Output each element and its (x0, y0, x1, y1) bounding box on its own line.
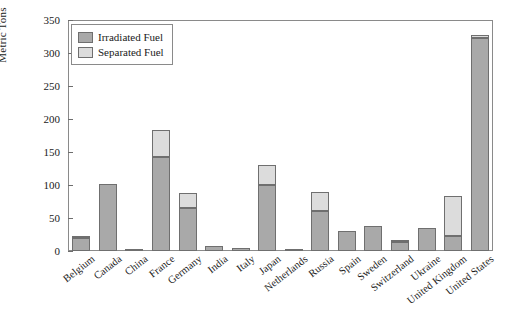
y-axis-title: Metric Tons (0, 0, 8, 95)
x-tick-label: Russia (307, 253, 336, 279)
legend-label: Irradiated Fuel (98, 31, 163, 43)
x-tick-label: Canada (92, 253, 124, 281)
y-tick-label: 300 (30, 47, 60, 59)
bar-segment-irradiated (471, 38, 489, 251)
y-tick-label: 50 (30, 212, 60, 224)
y-tick-label: 100 (30, 179, 60, 191)
bar-segment-irradiated (205, 246, 223, 251)
y-tick-label: 200 (30, 113, 60, 125)
bar-segment-separated (311, 192, 329, 212)
bar-segment-separated (444, 196, 462, 236)
bar-segment-separated (179, 193, 197, 208)
bar-segment-separated (152, 130, 170, 156)
bar-segment-separated (72, 236, 90, 238)
y-tick-label: 150 (30, 146, 60, 158)
bar-chart: Metric Tons 050100150200250300350 Belgiu… (0, 0, 505, 321)
bar-segment-separated (471, 35, 489, 38)
x-tick-label: China (123, 253, 150, 277)
bar-segment-irradiated (444, 236, 462, 251)
bar-segment-irradiated (152, 157, 170, 251)
x-tick-label: India (206, 253, 230, 275)
y-tick-mark (68, 251, 73, 252)
x-tick-label: Italy (234, 253, 256, 274)
x-tick-label: Belgium (61, 253, 97, 284)
legend: Irradiated FuelSeparated Fuel (71, 24, 173, 65)
bar-segment-irradiated (125, 249, 143, 251)
bar-segment-irradiated (258, 185, 276, 251)
y-tick-label: 250 (30, 80, 60, 92)
bar-segment-irradiated (72, 238, 90, 251)
bar-segment-irradiated (338, 231, 356, 251)
x-axis-labels: BelgiumCanadaChinaFranceGermanyIndiaItal… (68, 253, 493, 321)
bar-segment-irradiated (179, 208, 197, 251)
bar-segment-irradiated (99, 184, 117, 251)
y-tick-label: 0 (30, 245, 60, 257)
legend-swatch-sep (78, 47, 93, 58)
legend-label: Separated Fuel (98, 46, 164, 58)
bar-segment-irradiated (285, 249, 303, 251)
legend-swatch-irr (78, 32, 93, 43)
legend-item: Irradiated Fuel (78, 30, 164, 44)
y-tick-label: 350 (30, 14, 60, 26)
bar-segment-irradiated (364, 226, 382, 251)
bar-segment-irradiated (418, 228, 436, 251)
bar-segment-irradiated (391, 242, 409, 251)
legend-item: Separated Fuel (78, 45, 164, 59)
bar-segment-irradiated (311, 211, 329, 251)
bar-segment-irradiated (232, 248, 250, 251)
bar-segment-separated (258, 165, 276, 185)
bar-segment-separated (391, 240, 409, 243)
